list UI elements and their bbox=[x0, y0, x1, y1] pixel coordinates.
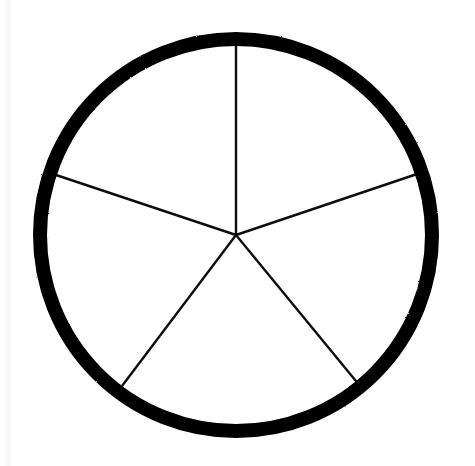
five-sector-circle-diagram bbox=[0, 0, 475, 466]
figure-canvas: Circle Divided Into Five Sectors bbox=[0, 0, 475, 466]
circle-center-point bbox=[234, 233, 238, 237]
